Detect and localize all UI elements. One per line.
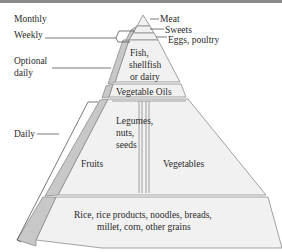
vegetable-oils-text: Vegetable Oils [116, 87, 172, 97]
food-pyramid-diagram: Monthly Weekly Optional daily Daily Meat… [0, 0, 282, 252]
grains-line-1: Rice, rice products, noodles, breads, [74, 210, 212, 220]
vegetables-text: Vegetables [163, 159, 204, 169]
label-optional-daily-2: daily [14, 68, 33, 78]
label-daily: Daily [14, 129, 35, 139]
label-sweets: Sweets [165, 25, 192, 35]
fruits-text: Fruits [81, 159, 103, 169]
legumes-line-2: nuts, [116, 128, 134, 138]
label-optional-daily-1: Optional [14, 56, 48, 66]
fish-line-1: Fish, [130, 48, 149, 58]
legumes-line-3: seeds [116, 140, 137, 150]
legumes-line-1: Legumes, [116, 116, 153, 126]
fish-line-2: shellfish [129, 60, 161, 70]
label-monthly: Monthly [14, 14, 47, 24]
fish-line-3: or dairy [130, 72, 160, 82]
label-eggs-poultry: Eggs, poultry [168, 35, 219, 45]
tier-meat [137, 15, 150, 26]
label-meat: Meat [160, 14, 180, 24]
grains-line-2: millet, corn, other grains [97, 222, 191, 232]
tier-plants [58, 99, 266, 195]
label-weekly: Weekly [14, 30, 43, 40]
tier-eggs-poultry [129, 33, 158, 40]
